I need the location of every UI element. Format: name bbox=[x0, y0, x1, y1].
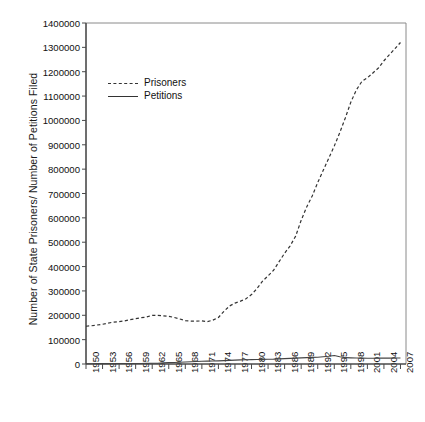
legend-solid-line-icon bbox=[108, 91, 138, 101]
chart-container: Number of State Prisoners/ Number of Pet… bbox=[0, 0, 425, 422]
legend-entry-petitions: Petitions bbox=[108, 89, 186, 102]
series-line-petitions bbox=[86, 355, 400, 363]
chart-legend: Prisoners Petitions bbox=[108, 76, 186, 102]
legend-entry-prisoners: Prisoners bbox=[108, 76, 186, 89]
legend-label-prisoners: Prisoners bbox=[144, 77, 186, 88]
legend-dashed-line-icon bbox=[108, 78, 138, 88]
plot-area bbox=[0, 0, 425, 422]
axis-frame bbox=[86, 23, 406, 364]
legend-label-petitions: Petitions bbox=[144, 90, 182, 101]
